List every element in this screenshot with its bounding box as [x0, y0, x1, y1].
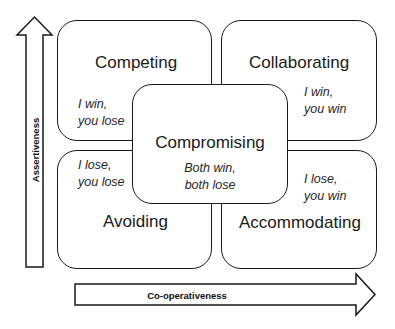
outcome-line-2: you win: [304, 188, 346, 205]
outcome-line-2: you lose: [78, 174, 125, 191]
center-title: Compromising: [133, 133, 287, 153]
quadrant-title: Competing: [95, 53, 177, 73]
outcome-line-2: you lose: [78, 113, 125, 130]
quadrant-outcome: I lose, you win: [304, 171, 346, 205]
cooperativeness-label: Co-operativeness: [147, 289, 227, 300]
outcome-line-2: you win: [304, 101, 346, 118]
outcome-line-1: I lose,: [78, 157, 125, 174]
outcome-line-1: I win,: [78, 96, 125, 113]
center-compromising: Compromising Both win, both lose: [132, 84, 288, 204]
outcome-line-1: Both win,: [133, 160, 287, 177]
assertiveness-label: Assertiveness: [29, 118, 40, 182]
quadrant-outcome: I lose, you lose: [78, 157, 125, 191]
quadrant-outcome: I win, you lose: [78, 96, 125, 130]
quadrant-title: Collaborating: [249, 53, 349, 73]
outcome-line-2: both lose: [133, 177, 287, 194]
quadrant-title: Avoiding: [103, 212, 168, 232]
quadrant-outcome: I win, you win: [304, 84, 346, 118]
quadrant-title: Accommodating: [239, 213, 361, 233]
outcome-line-1: I win,: [304, 84, 346, 101]
center-outcome: Both win, both lose: [133, 160, 287, 194]
outcome-line-1: I lose,: [304, 171, 346, 188]
